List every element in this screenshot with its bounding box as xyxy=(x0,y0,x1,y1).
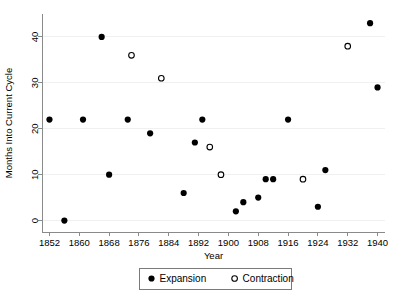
x-tick-label: 1868 xyxy=(99,237,120,248)
x-tick-label: 1876 xyxy=(128,237,149,248)
scatter-chart-figure: 1852186018681876188418921900190819161924… xyxy=(0,0,412,298)
data-points-group xyxy=(46,20,380,224)
data-point-expansion xyxy=(374,84,380,90)
data-point-expansion xyxy=(315,204,321,210)
y-tick-label: 0 xyxy=(29,218,40,223)
y-axis-title: Months Into Current Cycle xyxy=(3,68,14,178)
x-tick-label: 1892 xyxy=(188,237,209,248)
chart-legend: ExpansionContraction xyxy=(140,268,294,289)
x-tick-label: 1908 xyxy=(248,237,269,248)
legend-label-contraction[interactable]: Contraction xyxy=(243,273,294,284)
data-point-expansion xyxy=(255,194,261,200)
data-point-expansion xyxy=(99,34,105,40)
data-point-contraction xyxy=(345,43,351,49)
data-point-expansion xyxy=(147,130,153,136)
data-point-expansion xyxy=(263,176,269,182)
data-point-expansion xyxy=(181,190,187,196)
data-point-contraction xyxy=(159,75,165,81)
data-point-contraction xyxy=(207,144,213,150)
data-point-expansion xyxy=(285,116,291,122)
tick-marks-group xyxy=(38,37,378,236)
x-tick-label: 1916 xyxy=(277,237,298,248)
data-point-expansion xyxy=(46,116,52,122)
y-tick-label: 10 xyxy=(29,169,40,180)
data-point-expansion xyxy=(240,199,246,205)
data-point-expansion xyxy=(233,208,239,214)
data-point-expansion xyxy=(192,139,198,145)
x-tick-label: 1940 xyxy=(367,237,388,248)
data-point-expansion xyxy=(270,176,276,182)
legend-marker-contraction xyxy=(232,276,238,282)
legend-label-expansion[interactable]: Expansion xyxy=(160,273,207,284)
data-point-contraction xyxy=(300,176,306,182)
gridlines-group xyxy=(42,37,385,221)
x-tick-label: 1860 xyxy=(69,237,90,248)
x-tick-label: 1932 xyxy=(337,237,358,248)
x-axis-title: Year xyxy=(204,250,223,261)
data-point-expansion xyxy=(106,172,112,178)
y-tick-label: 20 xyxy=(29,123,40,134)
data-point-expansion xyxy=(322,167,328,173)
data-point-expansion xyxy=(199,116,205,122)
axes-group xyxy=(42,14,385,232)
data-point-contraction xyxy=(218,172,224,178)
chart-canvas: 1852186018681876188418921900190819161924… xyxy=(0,0,412,298)
x-tick-label: 1852 xyxy=(39,237,60,248)
y-tick-label: 30 xyxy=(29,78,40,89)
y-tick-label: 40 xyxy=(29,32,40,43)
x-tick-label: 1900 xyxy=(218,237,239,248)
data-point-expansion xyxy=(367,20,373,26)
data-point-contraction xyxy=(129,53,135,59)
tick-labels-group: 1852186018681876188418921900190819161924… xyxy=(29,32,388,248)
x-tick-label: 1884 xyxy=(158,237,179,248)
data-point-expansion xyxy=(125,116,131,122)
x-tick-label: 1924 xyxy=(307,237,328,248)
legend-marker-expansion xyxy=(148,275,154,281)
data-point-expansion xyxy=(80,116,86,122)
data-point-expansion xyxy=(61,217,67,223)
